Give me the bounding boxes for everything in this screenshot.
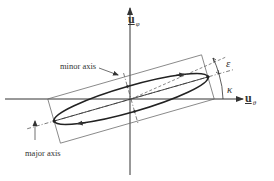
- vertical-axis-symbol: u: [128, 12, 135, 26]
- minor-axis-label: minor axis: [60, 62, 96, 71]
- epsilon-reference-line: [131, 57, 226, 99]
- epsilon-label: ε: [226, 58, 230, 69]
- horizontal-axis-label: uθ: [245, 92, 256, 107]
- vertical-axis-subscript: φ: [136, 20, 140, 28]
- horizontal-axis-subscript: θ: [253, 99, 256, 107]
- minor-axis-pointer: [99, 68, 118, 75]
- vertical-axis-label: uφ: [128, 13, 140, 28]
- horizontal-axis-symbol: u: [245, 91, 252, 105]
- rotation-arrow-bottom: [78, 121, 86, 124]
- polarization-ellipse-diagram: uφ uθ minor axis major axis ε κ: [0, 0, 274, 181]
- kappa-label: κ: [227, 84, 232, 95]
- kappa-arc: [219, 74, 223, 99]
- major-axis-label: major axis: [25, 149, 61, 158]
